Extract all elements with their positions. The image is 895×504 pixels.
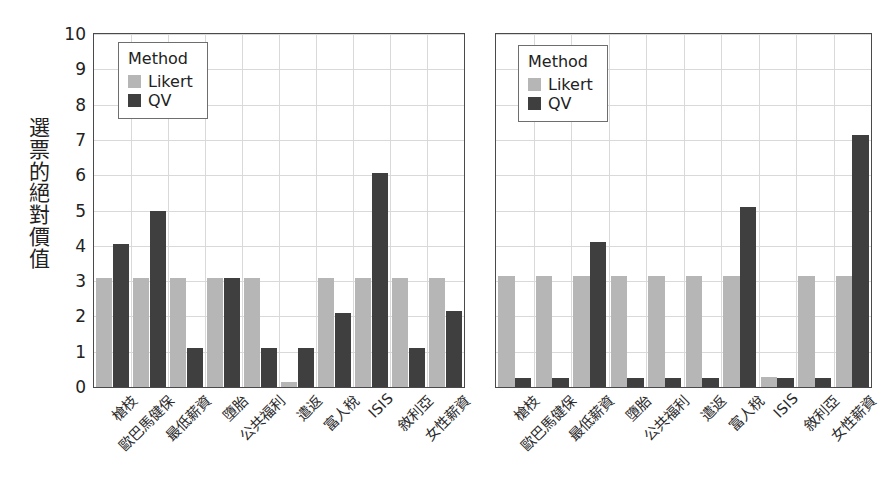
- legend-swatch-qv-icon: [528, 97, 541, 110]
- bar-likert-1: [133, 278, 149, 387]
- x-axis-tick-label: 富人稅: [723, 390, 768, 435]
- legend-title: Method: [128, 49, 193, 69]
- legend-left: Method Likert QV: [118, 42, 208, 119]
- bar-qv-9: [852, 135, 869, 387]
- legend-entry-qv[interactable]: QV: [128, 91, 193, 111]
- bar-qv-8: [409, 348, 425, 387]
- bar-qv-3: [627, 378, 644, 387]
- bar-likert-2: [573, 276, 590, 387]
- x-axis-tick-labels-left: 槍枝歐巴馬健保最低薪資墮胎公共福利遣返富人稅ISIS敘利亞女性薪資: [93, 390, 463, 500]
- bar-likert-6: [723, 276, 740, 387]
- bar-likert-7: [761, 377, 778, 387]
- legend-label-likert: Likert: [148, 72, 193, 92]
- y-axis-tick-label: 1: [75, 342, 86, 362]
- bar-likert-5: [281, 382, 297, 387]
- bar-qv-6: [740, 207, 757, 387]
- legend-entry-likert[interactable]: Likert: [128, 72, 193, 92]
- y-axis-tick-label: 8: [75, 95, 86, 115]
- bar-likert-8: [392, 278, 408, 387]
- bar-likert-9: [836, 276, 853, 387]
- plot-area-left: Method Likert QV: [93, 33, 465, 388]
- bar-qv-4: [665, 378, 682, 387]
- bar-likert-2: [170, 278, 186, 387]
- bar-qv-6: [335, 313, 351, 387]
- bar-likert-4: [244, 278, 260, 387]
- y-axis-tick-label: 6: [75, 165, 86, 185]
- y-axis-title-char: 絕: [22, 183, 56, 205]
- bar-likert-1: [536, 276, 553, 387]
- legend-entry-qv[interactable]: QV: [528, 94, 593, 114]
- bar-likert-9: [429, 278, 445, 387]
- y-axis-title: 選票的絕對價值: [22, 118, 56, 271]
- right-panel: Method Likert QV 槍枝歐巴馬健保最低薪資墮胎公共福利遣返富人稅I…: [470, 0, 895, 504]
- y-axis-title-char: 票: [22, 140, 56, 162]
- legend-title: Method: [528, 52, 593, 72]
- legend-label-qv: QV: [548, 94, 572, 114]
- x-axis-tick-label: 富人稅: [317, 390, 362, 435]
- bar-likert-3: [207, 278, 223, 387]
- y-axis-title-char: 對: [22, 205, 56, 227]
- legend-swatch-qv-icon: [128, 94, 141, 107]
- x-axis-tick-labels-right: 槍枝歐巴馬健保最低薪資墮胎公共福利遣返富人稅ISIS敘利亞女性薪資: [495, 390, 870, 500]
- bar-qv-9: [446, 311, 462, 387]
- x-axis-tick-label: ISIS: [771, 390, 802, 421]
- bar-qv-8: [815, 378, 832, 387]
- bar-qv-1: [552, 378, 569, 387]
- y-axis-tick-label: 4: [75, 236, 86, 256]
- bar-likert-0: [96, 278, 112, 387]
- y-axis-tick-label: 2: [75, 306, 86, 326]
- legend-right: Method Likert QV: [518, 45, 608, 122]
- plot-area-right: Method Likert QV: [495, 33, 872, 388]
- y-axis-title-char: 值: [22, 249, 56, 271]
- y-axis-title-char: 的: [22, 162, 56, 184]
- bar-qv-3: [224, 278, 240, 387]
- bar-qv-0: [113, 244, 129, 387]
- figure-two-panel-bar-chart: 選票的絕對價值 012345678910 Method Likert QV 槍枝…: [0, 0, 895, 504]
- y-axis-tick-label: 9: [75, 59, 86, 79]
- bar-likert-3: [611, 276, 628, 387]
- y-axis-tick-label: 7: [75, 130, 86, 150]
- legend-swatch-likert-icon: [528, 78, 541, 91]
- y-axis-tick-label: 5: [75, 201, 86, 221]
- y-axis-title-char: 選: [22, 118, 56, 140]
- bar-qv-7: [777, 378, 794, 387]
- bar-likert-7: [355, 278, 371, 387]
- bar-qv-5: [702, 378, 719, 387]
- legend-swatch-likert-icon: [128, 75, 141, 88]
- y-axis-tick-label: 10: [64, 24, 86, 44]
- y-axis-tick-labels-left: 012345678910: [58, 34, 86, 385]
- bar-qv-2: [590, 242, 607, 387]
- bar-qv-0: [515, 378, 532, 387]
- bar-likert-4: [648, 276, 665, 387]
- bar-likert-5: [686, 276, 703, 387]
- bar-qv-5: [298, 348, 314, 387]
- x-axis-tick-label: ISIS: [365, 390, 396, 421]
- bar-qv-7: [372, 173, 388, 387]
- left-panel: 選票的絕對價值 012345678910 Method Likert QV 槍枝…: [0, 0, 470, 504]
- bar-likert-0: [498, 276, 515, 387]
- bar-qv-2: [187, 348, 203, 387]
- y-axis-tick-label: 3: [75, 271, 86, 291]
- legend-label-likert: Likert: [548, 75, 593, 95]
- y-axis-title-char: 價: [22, 227, 56, 249]
- bar-likert-6: [318, 278, 334, 387]
- bar-qv-4: [261, 348, 277, 387]
- legend-label-qv: QV: [148, 91, 172, 111]
- bar-qv-1: [150, 211, 166, 388]
- legend-entry-likert[interactable]: Likert: [528, 75, 593, 95]
- y-axis-tick-label: 0: [75, 377, 86, 397]
- bar-likert-8: [798, 276, 815, 387]
